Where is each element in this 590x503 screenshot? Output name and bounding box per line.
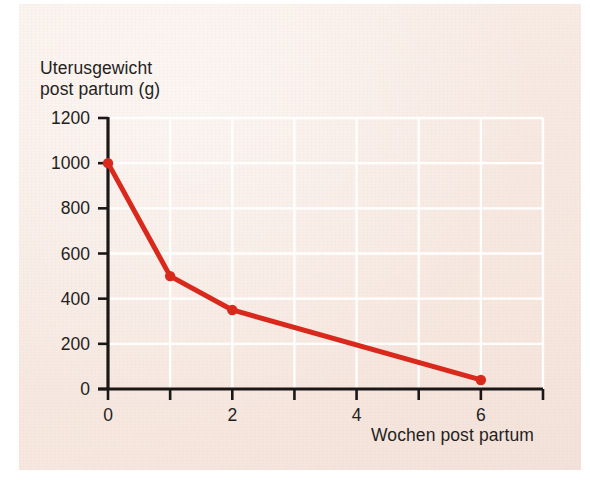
data-point-marker [165, 271, 175, 281]
y-tick-label: 1000 [0, 153, 90, 174]
data-point-marker [476, 375, 486, 385]
y-tick-label: 1200 [0, 108, 90, 129]
x-tick-label: 0 [103, 405, 113, 426]
data-point-marker [227, 305, 237, 315]
axis-ticks [98, 118, 543, 400]
x-tick-label: 2 [227, 405, 237, 426]
y-tick-label: 400 [0, 288, 90, 309]
y-tick-label: 600 [0, 243, 90, 264]
y-tick-label: 0 [0, 379, 90, 400]
x-tick-label: 4 [352, 405, 362, 426]
y-tick-label: 800 [0, 198, 90, 219]
gridlines [108, 118, 543, 389]
x-tick-label: 6 [476, 405, 486, 426]
figure-container: Uterusgewicht post partum (g) Wochen pos… [0, 0, 590, 503]
y-tick-label: 200 [0, 333, 90, 354]
data-point-marker [103, 158, 113, 168]
